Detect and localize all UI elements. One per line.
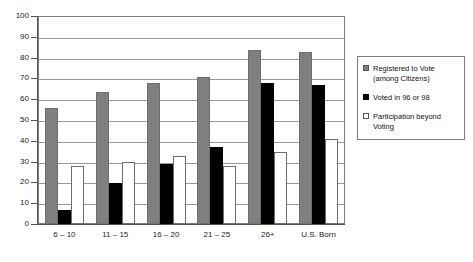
y-tick-mark [31, 16, 37, 17]
x-axis-line [38, 224, 345, 225]
y-tick-label: 90 [1, 33, 29, 41]
y-tick-mark [31, 78, 37, 79]
legend-item[interactable]: Registered to Vote (among Citizens) [363, 64, 459, 84]
bar-participation [325, 139, 338, 224]
legend-label-line2: (among Citizens) [373, 74, 430, 83]
bar-registered [147, 83, 160, 224]
y-tick-label: 50 [1, 116, 29, 124]
bar-voted [261, 83, 274, 224]
y-tick-label: 60 [1, 95, 29, 103]
legend-swatch-icon [363, 113, 369, 119]
y-tick-label: 0 [1, 220, 29, 228]
bar-group [141, 17, 192, 224]
y-tick-label: 40 [1, 137, 29, 145]
bar-registered [248, 50, 261, 224]
legend-swatch-icon [363, 94, 369, 100]
y-tick-label: 80 [1, 54, 29, 62]
bar-voted [160, 164, 173, 224]
y-tick-label: 30 [1, 158, 29, 166]
bar-voted [210, 147, 223, 224]
bar-group [242, 17, 293, 224]
y-tick-mark [31, 37, 37, 38]
y-tick-mark [31, 162, 37, 163]
x-tick-label: 6 – 10 [39, 230, 90, 239]
bar-registered [96, 92, 109, 224]
bar-voted [58, 210, 71, 224]
chart-legend: Registered to Vote (among Citizens)Voted… [357, 56, 465, 140]
x-axis-labels: 6 – 1011 – 1516 – 2021 – 2526+U.S. Born [39, 230, 344, 239]
x-tick-label: 21 – 25 [191, 230, 242, 239]
y-tick-mark [31, 120, 37, 121]
y-tick-mark [31, 182, 37, 183]
bar-group [191, 17, 242, 224]
y-axis-labels: 1009080706050403020100 [0, 0, 29, 262]
bar-participation [274, 152, 287, 224]
bar-participation [223, 166, 236, 224]
y-tick-label: 100 [1, 12, 29, 20]
y-tick-mark [31, 203, 37, 204]
bar-group [293, 17, 344, 224]
bar-groups [39, 17, 344, 224]
legend-item[interactable]: Participation beyond Voting [363, 112, 459, 132]
bar-participation [71, 166, 84, 224]
legend-item[interactable]: Voted in 96 or 98 [363, 93, 459, 103]
y-tick-mark [31, 58, 37, 59]
x-tick-label: 16 – 20 [141, 230, 192, 239]
x-tick-label: U.S. Born [293, 230, 344, 239]
y-tick-label: 70 [1, 74, 29, 82]
bar-registered [299, 52, 312, 224]
bar-registered [197, 77, 210, 224]
x-tick-label: 26+ [242, 230, 293, 239]
y-tick-mark [31, 99, 37, 100]
bar-group [39, 17, 90, 224]
bar-voted [312, 85, 325, 224]
bar-participation [173, 156, 186, 224]
legend-swatch-icon [363, 65, 369, 71]
y-tick-label: 20 [1, 178, 29, 186]
legend-label: Voted in 96 or 98 [373, 93, 459, 103]
bar-registered [45, 108, 58, 224]
bar-voted [109, 183, 122, 224]
x-tick-label: 11 – 15 [90, 230, 141, 239]
bar-participation [122, 162, 135, 224]
legend-label: Participation beyond Voting [373, 112, 459, 132]
legend-label: Registered to Vote (among Citizens) [373, 64, 459, 84]
y-tick-mark [31, 224, 37, 225]
legend-label-line2: Voting [373, 122, 394, 131]
y-tick-mark [31, 141, 37, 142]
bar-group [90, 17, 141, 224]
y-tick-label: 10 [1, 199, 29, 207]
chart-container: 1009080706050403020100 6 – 1011 – 1516 –… [0, 0, 473, 262]
